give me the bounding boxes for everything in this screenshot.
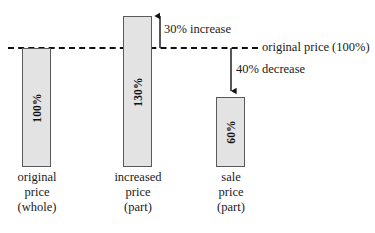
bar-caption-sale-price: sale price (part) xyxy=(193,170,269,215)
bar-value-label-original-price: 100% xyxy=(31,93,43,123)
bar-sale-price: 60% xyxy=(216,97,245,167)
bar-caption-line3-original-price: (whole) xyxy=(0,200,74,215)
bar-caption-line2-increased-price: price xyxy=(100,185,176,200)
bar-value-label-increased-price: 130% xyxy=(132,77,144,107)
bar-caption-original-price: original price (whole) xyxy=(0,170,74,215)
percent-bar-diagram: original price (100%) 100% original pric… xyxy=(0,0,375,233)
reference-line-label: original price (100%) xyxy=(262,40,370,55)
bar-increased-price: 130% xyxy=(123,16,152,167)
bar-caption-line3-increased-price: (part) xyxy=(100,200,176,215)
annotation-decrease-label: 40% decrease xyxy=(236,62,305,77)
bar-original-price: 100% xyxy=(22,48,51,167)
bar-caption-line1-increased-price: increased xyxy=(100,170,176,185)
bar-caption-line1-sale-price: sale xyxy=(193,170,269,185)
bar-caption-increased-price: increased price (part) xyxy=(100,170,176,215)
bar-caption-line2-original-price: price xyxy=(0,185,74,200)
bar-caption-line3-sale-price: (part) xyxy=(193,200,269,215)
bar-caption-line1-original-price: original xyxy=(0,170,74,185)
annotation-increase-label: 30% increase xyxy=(164,22,231,37)
bar-caption-line2-sale-price: price xyxy=(193,185,269,200)
bar-value-label-sale-price: 60% xyxy=(225,120,237,144)
